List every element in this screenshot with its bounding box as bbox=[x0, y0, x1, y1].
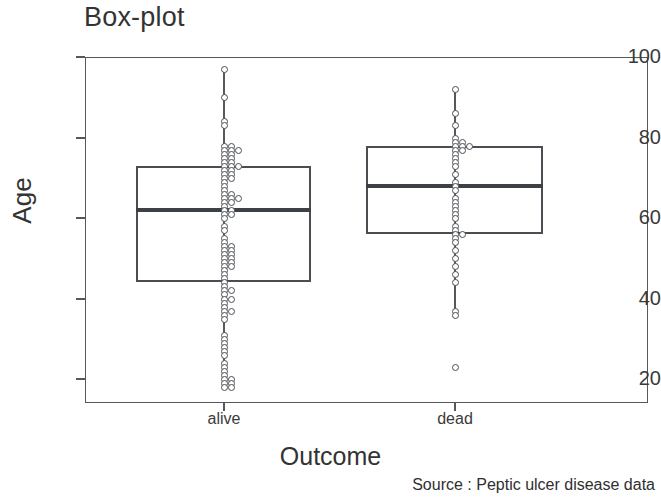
data-point bbox=[452, 110, 459, 117]
y-axis-title: Age bbox=[7, 151, 38, 251]
y-tick-mark bbox=[76, 298, 85, 300]
data-point bbox=[452, 171, 459, 178]
data-point bbox=[228, 175, 235, 182]
data-point bbox=[452, 86, 459, 93]
data-point bbox=[228, 384, 235, 391]
boxplot-figure: Box-plot Age 10080604020 alivedead Outco… bbox=[0, 0, 661, 502]
x-axis-title: Outcome bbox=[0, 442, 661, 471]
data-point bbox=[221, 316, 228, 323]
y-tick-mark bbox=[76, 137, 85, 139]
data-point bbox=[221, 215, 228, 222]
data-point bbox=[228, 211, 235, 218]
data-point bbox=[452, 271, 459, 278]
y-tick-mark bbox=[76, 217, 85, 219]
x-tick-label-dead: dead bbox=[395, 410, 515, 428]
data-point bbox=[221, 227, 228, 234]
y-tick-label: 80 bbox=[599, 127, 661, 147]
data-point bbox=[221, 66, 228, 73]
y-tick-label: 40 bbox=[599, 288, 661, 308]
y-tick-label: 20 bbox=[599, 368, 661, 388]
data-point bbox=[459, 231, 466, 238]
data-point bbox=[228, 199, 235, 206]
data-point bbox=[452, 279, 459, 286]
data-point bbox=[452, 312, 459, 319]
data-point bbox=[221, 94, 228, 101]
data-point bbox=[221, 122, 228, 129]
data-point bbox=[228, 296, 235, 303]
data-point bbox=[235, 195, 242, 202]
chart-title: Box-plot bbox=[84, 2, 185, 33]
data-point bbox=[452, 255, 459, 262]
y-tick-mark bbox=[76, 378, 85, 380]
data-point bbox=[228, 263, 235, 270]
data-point bbox=[228, 287, 235, 294]
y-tick-mark bbox=[76, 56, 85, 58]
data-point bbox=[221, 352, 228, 359]
data-point bbox=[235, 147, 242, 154]
data-point bbox=[466, 143, 473, 150]
data-point bbox=[228, 308, 235, 315]
data-point bbox=[459, 147, 466, 154]
y-tick-label: 60 bbox=[599, 207, 661, 227]
x-tick-label-alive: alive bbox=[164, 410, 284, 428]
x-tick-mark bbox=[223, 403, 225, 411]
source-note: Source : Peptic ulcer disease data bbox=[0, 476, 655, 494]
data-point bbox=[235, 163, 242, 170]
data-point bbox=[452, 263, 459, 270]
data-point bbox=[452, 239, 459, 246]
data-point bbox=[452, 163, 459, 170]
x-tick-mark bbox=[454, 403, 456, 411]
data-point bbox=[452, 122, 459, 129]
data-point bbox=[452, 187, 459, 194]
data-point bbox=[221, 384, 228, 391]
data-point bbox=[452, 215, 459, 222]
data-point bbox=[452, 364, 459, 371]
data-point bbox=[452, 247, 459, 254]
y-tick-label: 100 bbox=[599, 46, 661, 66]
